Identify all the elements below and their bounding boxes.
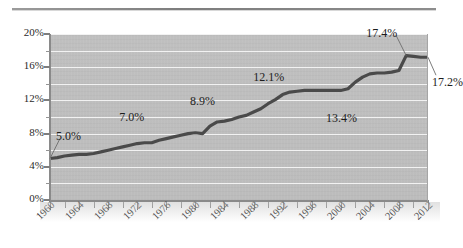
- x-axis-tick-minor: [210, 202, 211, 208]
- header-divider: [12, 8, 436, 10]
- x-axis-tick-label: 1964: [63, 199, 86, 222]
- x-axis-tick-label: 1968: [92, 199, 115, 222]
- y-axis-tick-label: 8%: [8, 126, 44, 138]
- x-axis-tick-label: 2000: [325, 199, 348, 222]
- data-label: 13.4%: [326, 111, 357, 126]
- x-axis-tick-minor: [152, 202, 153, 208]
- annotation-leaders: [50, 34, 428, 200]
- x-axis-tick-minor: [65, 202, 66, 208]
- y-axis-tick-label: 16%: [8, 59, 44, 71]
- y-axis-tick-label: 20%: [8, 26, 44, 38]
- x-axis-tick-minor: [297, 202, 298, 208]
- x-axis-tick-minor: [268, 202, 269, 208]
- y-axis-tick-label: 4%: [8, 159, 44, 171]
- x-axis-tick-label: 1984: [208, 199, 231, 222]
- line-chart: 0%4%8%12%16%20% 196019641968197219761980…: [0, 20, 448, 248]
- x-axis-tick-label: 1980: [179, 199, 202, 222]
- annotation-leader-line: [428, 57, 436, 75]
- x-axis-tick-minor: [384, 202, 385, 208]
- y-axis-tick-label: 12%: [8, 92, 44, 104]
- x-axis-tick-minor: [123, 202, 124, 208]
- y-axis-tick-label: 0%: [8, 192, 44, 204]
- x-axis-tick-minor: [181, 202, 182, 208]
- x-axis-tick-minor: [94, 202, 95, 208]
- x-axis-tick-label: 2008: [383, 199, 406, 222]
- x-axis-tick-minor: [355, 202, 356, 208]
- x-axis-tick-label: 1972: [121, 199, 144, 222]
- x-axis-tick-label: 2012: [412, 199, 435, 222]
- x-axis-tick-label: 1992: [267, 199, 290, 222]
- data-label: 12.1%: [253, 70, 284, 85]
- x-axis-tick-label: 1976: [150, 199, 173, 222]
- annotation-leader-line: [396, 36, 406, 56]
- data-label: 5.0%: [56, 129, 81, 144]
- data-label: 17.2%: [432, 75, 463, 90]
- x-axis-tick-label: 1996: [296, 199, 319, 222]
- x-axis-tick-minor: [413, 202, 414, 208]
- x-axis-tick-label: 2004: [354, 199, 377, 222]
- data-label: 7.0%: [119, 110, 144, 125]
- x-axis-tick-label: 1988: [238, 199, 261, 222]
- x-axis-tick-minor: [239, 202, 240, 208]
- data-label: 17.4%: [366, 26, 397, 41]
- x-axis-tick-minor: [326, 202, 327, 208]
- data-label: 8.9%: [190, 94, 215, 109]
